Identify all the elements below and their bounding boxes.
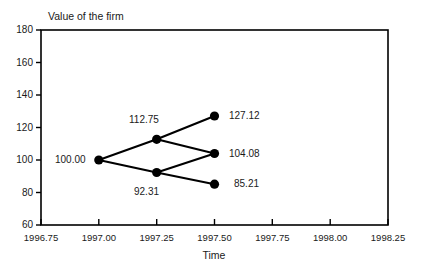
y-tick-label-100: 100 [0,154,33,165]
node-marker-u [152,135,161,144]
node-label-updown: 104.08 [229,148,260,159]
node-marker-ud [210,149,219,158]
node-marker-root [94,155,103,164]
node-label-down: 92.31 [134,186,159,197]
y-tick-label-120: 120 [0,122,33,133]
y-tick-label-160: 160 [0,57,33,68]
chart-title: Value of the firm [48,11,124,22]
node-marker-d [152,168,161,177]
y-tick-label-80: 80 [0,187,33,198]
node-label-up: 112.75 [129,114,159,125]
node-label-root: 100.00 [55,154,86,165]
node-label-downdown: 85.21 [234,178,259,189]
chart-figure: Value of the firm 180 160 140 120 100 80… [0,0,422,272]
y-tick-label-60: 60 [0,219,33,230]
node-label-upup: 127.12 [229,110,260,121]
x-axis-title: Time [164,250,264,261]
x-tick-label-1998-25: 1998.25 [353,232,422,243]
node-marker-dd [210,180,219,189]
node-marker-uu [210,111,219,120]
y-tick-label-140: 140 [0,89,33,100]
plot-frame [41,30,388,225]
y-tick-label-180: 180 [0,24,33,35]
